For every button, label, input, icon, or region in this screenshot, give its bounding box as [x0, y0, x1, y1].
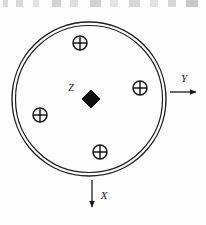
figure-root: Z YX	[0, 0, 206, 225]
axes-group: YX	[92, 72, 196, 207]
center-diamond-icon	[82, 90, 100, 108]
crossed-circle-left	[33, 108, 47, 122]
crossed-circle-top	[73, 36, 87, 50]
physics-diagram: Z YX	[0, 0, 206, 225]
axis-x: X	[92, 180, 109, 207]
axis-y: Y	[170, 72, 196, 92]
crossed-circle-right	[133, 81, 147, 95]
axis-label-y: Y	[181, 72, 189, 84]
center-marker-group: Z	[68, 82, 100, 108]
crossed-circle-bottom	[93, 145, 107, 159]
axis-label-x: X	[100, 189, 109, 201]
axis-label-z: Z	[68, 82, 74, 93]
